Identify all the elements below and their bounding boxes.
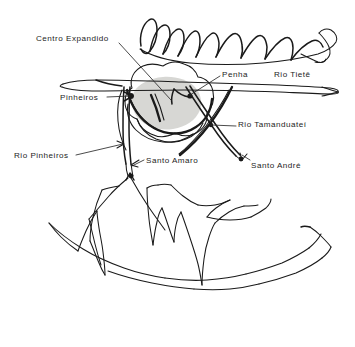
label-centro-expandido: Centro Expandido bbox=[36, 35, 109, 43]
centro-expandido-shaded-area bbox=[132, 77, 201, 130]
rio-tiete-river bbox=[60, 80, 338, 96]
label-pinheiros: Pinheiros bbox=[60, 94, 98, 102]
label-rio-pinheiros: Rio Pinheiros bbox=[14, 152, 69, 160]
label-santo-amaro: Santo Amaro bbox=[146, 157, 198, 165]
label-santo-andre: Santo André bbox=[251, 162, 301, 170]
serra-scribble bbox=[140, 19, 337, 64]
label-penha: Penha bbox=[222, 71, 248, 79]
urban-sprawl-shapes bbox=[49, 178, 331, 290]
leader-rio-tamanduatei bbox=[211, 125, 236, 126]
leader-rio-pinheiros bbox=[76, 144, 123, 155]
leader-pinheiros bbox=[107, 96, 130, 97]
sketch-map-figure: Centro Expandido Pinheiros Rio Pinheiros… bbox=[0, 0, 355, 347]
sketch-drawing bbox=[0, 0, 355, 347]
label-rio-tiete: Rio Tietê bbox=[274, 71, 310, 79]
label-rio-tamanduatei: Rio Tamanduateí bbox=[238, 121, 307, 129]
